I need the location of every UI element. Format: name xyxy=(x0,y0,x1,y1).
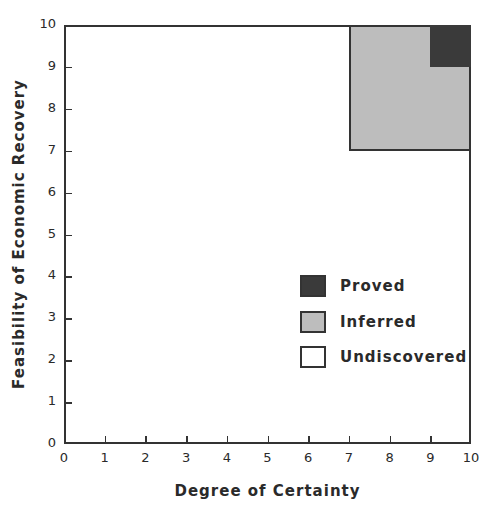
y-tick-mark xyxy=(66,276,72,278)
x-tick-mark xyxy=(105,436,107,442)
y-tick-mark xyxy=(66,67,72,69)
legend-swatch-inferred xyxy=(300,311,326,333)
x-tick-label: 6 xyxy=(296,450,320,465)
x-tick-label: 0 xyxy=(52,450,76,465)
x-axis-label: Degree of Certainty xyxy=(64,482,471,500)
x-tick-label: 1 xyxy=(93,450,117,465)
y-tick-mark xyxy=(66,151,72,153)
legend-label-undiscovered: Undiscovered xyxy=(340,348,467,366)
x-tick-label: 9 xyxy=(418,450,442,465)
legend-label-inferred: Inferred xyxy=(340,313,417,331)
y-tick-mark xyxy=(66,360,72,362)
y-tick-label: 9 xyxy=(36,59,56,73)
y-tick-label: 7 xyxy=(36,143,56,157)
y-tick-mark xyxy=(66,318,72,320)
x-tick-mark xyxy=(268,436,270,442)
x-tick-mark xyxy=(430,436,432,442)
legend-swatch-undiscovered xyxy=(300,346,326,368)
x-tick-label: 4 xyxy=(215,450,239,465)
legend-label-proved: Proved xyxy=(340,277,405,295)
y-tick-mark xyxy=(66,193,72,195)
y-tick-label: 8 xyxy=(36,101,56,115)
x-tick-mark xyxy=(145,436,147,442)
y-tick-mark xyxy=(66,235,72,237)
x-tick-mark xyxy=(186,436,188,442)
x-tick-label: 2 xyxy=(133,450,157,465)
y-tick-label: 4 xyxy=(36,268,56,282)
y-tick-label: 10 xyxy=(36,17,56,31)
legend-item-proved: Proved xyxy=(300,274,405,298)
x-tick-mark xyxy=(349,436,351,442)
legend-swatch-proved xyxy=(300,275,326,297)
x-tick-label: 10 xyxy=(459,450,483,465)
y-axis-label: Feasibility of Economic Recovery xyxy=(10,24,28,444)
y-tick-label: 0 xyxy=(36,436,56,450)
y-tick-label: 5 xyxy=(36,227,56,241)
x-tick-mark xyxy=(308,436,310,442)
x-tick-label: 8 xyxy=(378,450,402,465)
x-tick-label: 7 xyxy=(337,450,361,465)
y-tick-label: 2 xyxy=(36,352,56,366)
legend-item-undiscovered: Undiscovered xyxy=(300,345,467,369)
y-tick-label: 3 xyxy=(36,310,56,324)
y-tick-label: 6 xyxy=(36,185,56,199)
y-tick-mark xyxy=(66,402,72,404)
y-tick-label: 1 xyxy=(36,394,56,408)
x-tick-label: 5 xyxy=(256,450,280,465)
y-tick-mark xyxy=(66,109,72,111)
x-tick-mark xyxy=(227,436,229,442)
legend-item-inferred: Inferred xyxy=(300,310,417,334)
x-tick-mark xyxy=(390,436,392,442)
region-proved xyxy=(430,25,471,67)
x-tick-label: 3 xyxy=(174,450,198,465)
